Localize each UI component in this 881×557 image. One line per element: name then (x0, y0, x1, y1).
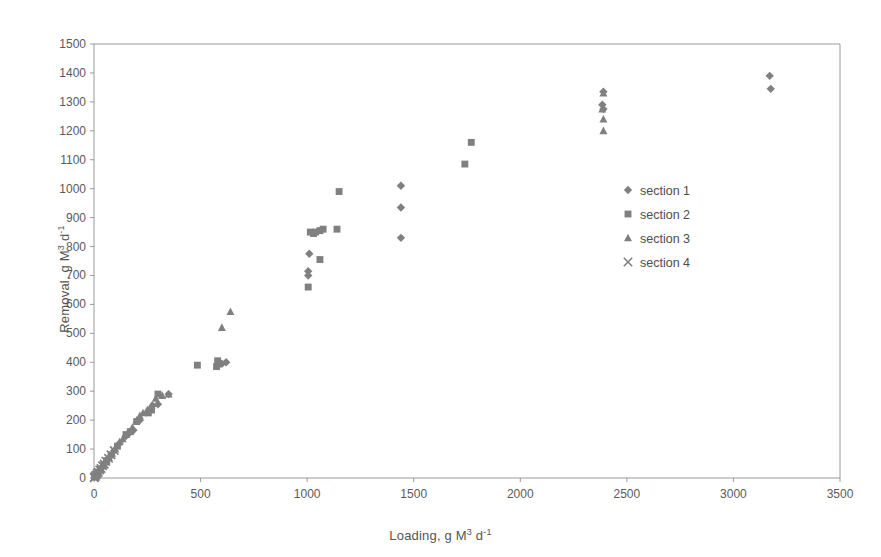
data-point (194, 362, 201, 369)
x-tick-label: 3000 (720, 487, 747, 501)
data-point (305, 284, 312, 291)
x-tick-label: 500 (191, 487, 211, 501)
data-point (767, 85, 775, 93)
y-tick-label: 100 (66, 442, 86, 456)
y-tick-label: 1500 (59, 37, 86, 51)
series-2 (92, 139, 475, 480)
data-point (304, 271, 312, 279)
legend-marker-1 (624, 186, 632, 194)
y-tick-label: 600 (66, 297, 86, 311)
data-point (461, 161, 468, 168)
x-tick-label: 2500 (614, 487, 641, 501)
series-1 (90, 72, 774, 482)
y-tick-label: 1100 (60, 153, 86, 167)
y-tick-label: 0 (79, 471, 86, 485)
data-point (397, 203, 405, 211)
y-tick-label: 1300 (59, 95, 86, 109)
data-point (397, 234, 405, 242)
data-point (599, 127, 607, 135)
data-point (334, 226, 341, 233)
plot-area: 0100200300400500600700800900100011001200… (0, 0, 881, 557)
data-point (468, 139, 475, 146)
y-tick-label: 1000 (59, 182, 86, 196)
legend-label-2: section 2 (640, 208, 690, 222)
series-3 (91, 89, 608, 480)
data-point (218, 323, 226, 331)
legend-marker-4 (624, 258, 632, 266)
plot-frame (94, 44, 840, 478)
y-tick-label: 900 (66, 211, 86, 225)
legend-marker-3 (624, 234, 632, 242)
x-tick-label: 1000 (294, 487, 321, 501)
data-point (599, 115, 607, 123)
legend-label-4: section 4 (640, 256, 690, 270)
data-point (213, 363, 220, 370)
data-point (397, 182, 405, 190)
legend-marker-2 (625, 211, 632, 218)
y-tick-label: 1400 (59, 66, 86, 80)
y-tick-label: 400 (66, 355, 86, 369)
x-tick-label: 0 (91, 487, 98, 501)
x-tick-label: 2000 (507, 487, 534, 501)
data-point (336, 188, 343, 195)
y-tick-label: 800 (66, 240, 86, 254)
x-tick-label: 3500 (827, 487, 854, 501)
y-tick-label: 1200 (59, 124, 86, 138)
y-tick-label: 700 (66, 268, 86, 282)
scatter-chart: Removal, g M3 d-1 Loading, g M3 d-1 0100… (0, 0, 881, 557)
data-point (307, 229, 314, 236)
y-tick-label: 500 (66, 326, 86, 340)
legend-label-3: section 3 (640, 232, 690, 246)
legend-label-1: section 1 (640, 184, 690, 198)
data-point (226, 307, 234, 315)
y-tick-label: 300 (66, 384, 86, 398)
data-point (316, 256, 323, 263)
data-point (765, 72, 773, 80)
y-tick-label: 200 (66, 413, 86, 427)
legend: section 1section 2section 3section 4 (624, 184, 690, 270)
data-point (305, 250, 313, 258)
x-tick-label: 1500 (400, 487, 427, 501)
